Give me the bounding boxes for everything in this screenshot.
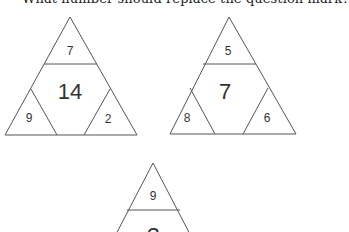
left-number: 9 (26, 111, 33, 125)
left-corner-divider (31, 89, 57, 135)
top-number: 7 (67, 44, 74, 58)
triangle-puzzle-1: 7 14 9 2 (5, 17, 137, 135)
right-number: 2 (105, 112, 112, 126)
center-number: 14 (58, 79, 82, 104)
top-number: 9 (150, 189, 157, 203)
center-question-mark: ? (147, 223, 159, 232)
triangle-puzzle-2: 5 7 8 6 (170, 17, 296, 134)
triangle-puzzle-3: 9 ? (113, 163, 193, 232)
center-number: 7 (219, 79, 231, 104)
right-number: 6 (264, 111, 271, 125)
left-corner-divider (190, 88, 215, 134)
top-number: 5 (225, 44, 232, 58)
left-number: 8 (184, 111, 191, 125)
